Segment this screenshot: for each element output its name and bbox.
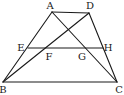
label-A: A xyxy=(45,0,54,11)
label-G: G xyxy=(78,51,86,62)
label-B: B xyxy=(0,84,7,95)
label-D: D xyxy=(86,0,94,11)
label-C: C xyxy=(115,84,123,95)
label-E: E xyxy=(17,42,24,53)
label-H: H xyxy=(104,42,113,53)
segment-AB xyxy=(3,12,52,82)
segment-AD xyxy=(52,12,89,13)
label-F: F xyxy=(46,51,53,62)
trapezoid-diagram: A D E H F G B C xyxy=(0,0,124,95)
